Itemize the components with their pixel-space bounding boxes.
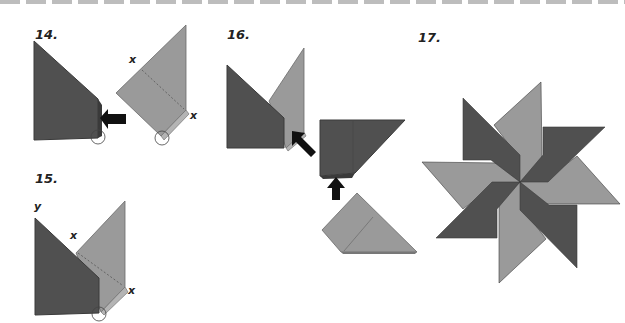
insert-arrow-icon [327,177,345,200]
step-14-diagram [34,25,189,145]
light-unit [116,25,186,136]
light-unit-edge [341,252,417,254]
step-17-star [422,82,620,283]
dark-unit [34,41,98,140]
dark-unit [320,120,405,176]
light-unit [322,193,417,252]
push-arrow-icon [100,109,126,129]
step-16-diagram [227,48,417,254]
step-15-diagram [35,201,128,321]
